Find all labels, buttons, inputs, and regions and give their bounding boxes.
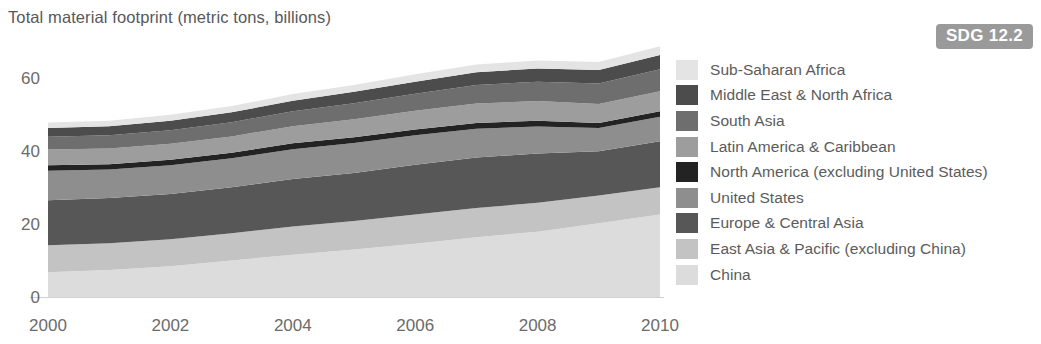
legend-item[interactable]: East Asia & Pacific (excluding China) bbox=[676, 236, 1041, 262]
legend-item-label: Sub-Saharan Africa bbox=[710, 61, 845, 79]
legend-item-label: South Asia bbox=[710, 112, 785, 130]
legend-item[interactable]: Latin America & Caribbean bbox=[676, 134, 1041, 160]
legend-swatch-icon bbox=[676, 265, 698, 285]
legend-item[interactable]: Europe & Central Asia bbox=[676, 211, 1041, 237]
legend-item[interactable]: South Asia bbox=[676, 108, 1041, 134]
x-axis-tick-label: 2000 bbox=[29, 316, 67, 335]
legend-swatch-icon bbox=[676, 213, 698, 233]
legend-item[interactable]: China bbox=[676, 262, 1041, 288]
area-series-group bbox=[48, 46, 660, 297]
legend-item-label: Europe & Central Asia bbox=[710, 214, 864, 232]
legend-item-label: China bbox=[710, 266, 751, 284]
legend-swatch-icon bbox=[676, 188, 698, 208]
legend-item-label: Middle East & North Africa bbox=[710, 86, 892, 104]
legend-item[interactable]: Sub-Saharan Africa bbox=[676, 57, 1041, 83]
legend-item-label: East Asia & Pacific (excluding China) bbox=[710, 240, 966, 258]
legend-swatch-icon bbox=[676, 111, 698, 131]
x-axis-tick-label: 2008 bbox=[519, 316, 557, 335]
legend-item[interactable]: United States bbox=[676, 185, 1041, 211]
legend-swatch-icon bbox=[676, 85, 698, 105]
y-axis-tick-label: 60 bbox=[21, 69, 40, 88]
legend-item[interactable]: North America (excluding United States) bbox=[676, 159, 1041, 185]
x-axis-tick-label: 2006 bbox=[396, 316, 434, 335]
legend-swatch-icon bbox=[676, 162, 698, 182]
legend-item-label: United States bbox=[710, 189, 804, 207]
x-axis-tick-label: 2010 bbox=[641, 316, 679, 335]
x-tick-labels: 200020022004200620082010 bbox=[29, 316, 679, 335]
legend-swatch-icon bbox=[676, 137, 698, 157]
x-axis-tick-label: 2004 bbox=[274, 316, 312, 335]
y-axis-tick-label: 20 bbox=[21, 215, 40, 234]
y-axis-tick-label: 40 bbox=[21, 142, 40, 161]
chart-legend: Sub-Saharan AfricaMiddle East & North Af… bbox=[676, 57, 1041, 287]
y-axis-tick-label: 0 bbox=[31, 288, 40, 307]
y-tick-labels: 0204060 bbox=[21, 69, 40, 307]
legend-item[interactable]: Middle East & North Africa bbox=[676, 83, 1041, 109]
legend-swatch-icon bbox=[676, 60, 698, 80]
legend-swatch-icon bbox=[676, 239, 698, 259]
x-axis-tick-label: 2002 bbox=[151, 316, 189, 335]
legend-item-label: Latin America & Caribbean bbox=[710, 138, 896, 156]
legend-item-label: North America (excluding United States) bbox=[710, 163, 988, 181]
